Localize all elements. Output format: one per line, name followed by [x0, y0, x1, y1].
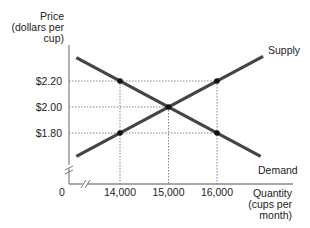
- demand-label: Demand: [258, 164, 298, 176]
- x-tick-label-0: 14,000: [104, 186, 136, 198]
- supply-label: Supply: [268, 44, 301, 56]
- supply-demand-chart: Price (dollars per cup) Quantity (cups p…: [0, 0, 310, 228]
- x-axis-title-line-3: month): [259, 209, 292, 221]
- y-axis-title-line-3: cup): [44, 32, 64, 44]
- y-tick-label-2: $1.80: [36, 127, 62, 139]
- y-tick-label-1: $2.00: [36, 101, 62, 113]
- data-point-4: [214, 130, 220, 136]
- x-tick-label-2: 16,000: [201, 186, 233, 198]
- data-point-3: [214, 78, 220, 84]
- data-point-1: [117, 130, 123, 136]
- tick-labels: $2.20$2.00$1.8014,00015,00016,000: [36, 75, 233, 198]
- y-tick-label-0: $2.20: [36, 75, 62, 87]
- data-point-2: [166, 104, 172, 110]
- data-point-0: [117, 78, 123, 84]
- guide-lines: [69, 81, 217, 184]
- x-tick-label-1: 15,000: [152, 186, 184, 198]
- origin-label: 0: [59, 186, 65, 198]
